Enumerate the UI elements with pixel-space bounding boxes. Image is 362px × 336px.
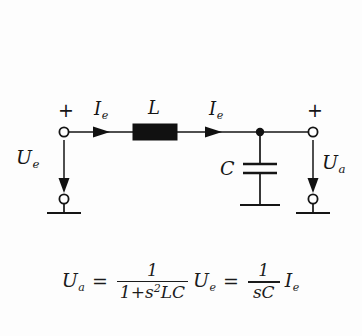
transfer-function-formula: Ua = 1 1+s2LC Ue = 1 sC Ie bbox=[0, 252, 362, 312]
input-current-label: Ie bbox=[94, 100, 108, 121]
voltage-arrow-output-head bbox=[308, 178, 319, 193]
formula-equals-2: = bbox=[223, 272, 239, 291]
formula-fraction-1-numerator: 1 bbox=[143, 262, 162, 281]
capacitor-label: C bbox=[220, 159, 235, 178]
output-voltage-subscript: a bbox=[339, 164, 346, 176]
inductor-label: L bbox=[148, 99, 160, 117]
terminal-input-bottom[interactable] bbox=[59, 194, 68, 203]
formula-fraction-2-denominator: sC bbox=[248, 283, 280, 302]
output-polarity-plus: + bbox=[307, 101, 323, 120]
circuit-figure: + + Ie L Ie Ue Ua C Ua = 1 1+s2LC Ue = 1 bbox=[0, 0, 362, 336]
formula-lhs: Ua bbox=[62, 271, 86, 293]
formula-multiplicand-1-subscript: e bbox=[209, 282, 216, 293]
output-current-subscript: e bbox=[217, 110, 224, 121]
formula-fraction-1: 1 1+s2LC bbox=[117, 262, 188, 302]
input-voltage-symbol: U bbox=[16, 146, 32, 168]
formula-lhs-symbol: U bbox=[62, 269, 78, 291]
formula-equals-1: = bbox=[92, 272, 108, 291]
formula-fraction-1-denominator: 1+s2LC bbox=[117, 282, 188, 302]
formula-lhs-subscript: a bbox=[78, 282, 85, 293]
voltage-arrow-input-head bbox=[59, 178, 70, 193]
denominator-lead: 1+ bbox=[120, 282, 145, 302]
input-current-subscript: e bbox=[102, 110, 109, 121]
formula-fraction-2: 1 sC bbox=[248, 262, 280, 301]
denominator-exponent: 2 bbox=[154, 283, 161, 295]
formula-multiplicand-1-symbol: U bbox=[193, 269, 209, 291]
formula-row: Ua = 1 1+s2LC Ue = 1 sC Ie bbox=[62, 262, 300, 302]
input-voltage-subscript: e bbox=[33, 159, 40, 171]
current-arrow-input bbox=[93, 127, 110, 138]
output-current-symbol: I bbox=[209, 98, 216, 119]
formula-fraction-2-numerator: 1 bbox=[254, 262, 273, 281]
terminal-output-top[interactable] bbox=[308, 127, 317, 136]
formula-multiplicand-1: Ue bbox=[193, 271, 217, 293]
denominator-tail: LC bbox=[161, 282, 185, 302]
output-voltage-symbol: U bbox=[322, 151, 338, 173]
terminal-output-bottom[interactable] bbox=[308, 194, 317, 203]
denominator-s: s bbox=[145, 282, 154, 302]
inductor-body bbox=[133, 124, 177, 140]
formula-multiplicand-2-symbol: I bbox=[285, 269, 293, 291]
input-voltage-label: Ue bbox=[16, 148, 39, 171]
input-current-symbol: I bbox=[94, 98, 101, 119]
formula-multiplicand-2: Ie bbox=[285, 271, 301, 293]
output-voltage-label: Ua bbox=[322, 153, 346, 176]
input-polarity-plus: + bbox=[58, 101, 74, 120]
current-arrow-output bbox=[205, 127, 222, 138]
output-current-label: Ie bbox=[209, 100, 223, 121]
formula-multiplicand-2-subscript: e bbox=[293, 282, 300, 293]
terminal-input-top[interactable] bbox=[59, 127, 68, 136]
